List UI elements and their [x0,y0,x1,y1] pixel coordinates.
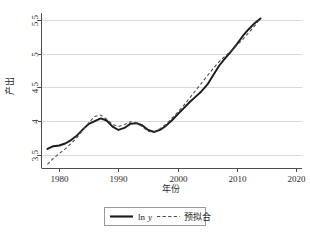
legend-label-ln-y-variable: y [147,212,152,222]
y-axis-tick-label: 3.5 [30,149,40,161]
y-axis-title: 产出 [4,77,15,95]
y-axis-tick-label: 4 [30,119,40,124]
chart-figure: 3.544.555.5 19801990200020102020 产出 年份 l… [0,0,310,233]
y-axis-tick-label: 5.5 [30,14,40,26]
chart-legend[interactable]: ln y 预拟合 [105,208,212,226]
x-axis-tick-label: 1980 [51,174,70,184]
legend-label-prefit: 预拟合 [184,211,211,222]
x-axis-tick-label: 2020 [288,174,307,184]
chart-background [0,0,310,233]
output-line-chart: 3.544.555.5 19801990200020102020 产出 年份 l… [0,0,310,233]
legend-label-ln-y-prefix: ln [138,212,146,222]
x-axis-tick-label: 1990 [110,174,129,184]
x-axis-title: 年份 [162,183,180,194]
y-axis-tick-label: 5 [30,52,40,57]
y-axis-tick-label: 4.5 [30,81,40,93]
x-axis-tick-label: 2000 [170,174,189,184]
x-axis-tick-label: 2010 [229,174,248,184]
